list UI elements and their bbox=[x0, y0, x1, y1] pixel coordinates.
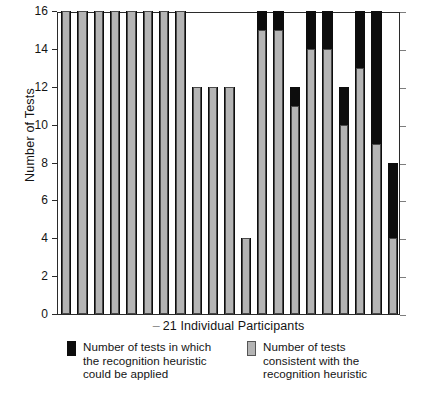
right-axis-ticks bbox=[400, 12, 412, 315]
bar-group bbox=[61, 11, 71, 314]
right-axis-tick-mark bbox=[400, 164, 406, 165]
plot-area bbox=[57, 12, 400, 315]
bar-group bbox=[159, 11, 169, 314]
bar-chart-figure: 0246810121416 Number of Tests –21 Indivi… bbox=[0, 0, 425, 405]
bar-group bbox=[110, 11, 120, 314]
legend-label-consistent-line2: consistent with the bbox=[263, 354, 359, 367]
bar-segment-consistent bbox=[62, 11, 70, 314]
right-axis-tick-mark bbox=[400, 277, 406, 278]
right-axis-tick-mark bbox=[400, 126, 406, 127]
bar-group bbox=[224, 11, 234, 314]
bar-segment-consistent bbox=[323, 49, 331, 314]
bar-group bbox=[273, 11, 283, 314]
bar-group bbox=[208, 11, 218, 314]
bar-group bbox=[322, 11, 332, 314]
bar-segment-consistent bbox=[372, 144, 380, 314]
bar-group bbox=[388, 11, 398, 314]
bar-group bbox=[371, 11, 381, 314]
y-axis-title: Number of Tests bbox=[23, 45, 37, 225]
bar-group bbox=[192, 11, 202, 314]
bar-group bbox=[241, 11, 251, 314]
right-axis-tick-mark bbox=[400, 12, 406, 13]
bars-layer bbox=[58, 13, 399, 314]
legend-swatch-gray-icon bbox=[247, 341, 256, 356]
bar-group bbox=[77, 11, 87, 314]
legend-label-applied: Number of tests in which the recognition… bbox=[83, 340, 211, 381]
bar-segment-consistent bbox=[225, 87, 233, 314]
bar-group bbox=[339, 11, 349, 314]
x-axis-title: –21 Individual Participants bbox=[57, 319, 400, 333]
bar-segment-consistent bbox=[144, 11, 152, 314]
right-axis-tick-mark bbox=[400, 50, 406, 51]
bar-group bbox=[355, 11, 365, 314]
bar-segment-consistent bbox=[242, 238, 250, 314]
bar-segment-consistent bbox=[127, 11, 135, 314]
bar-group bbox=[126, 11, 136, 314]
y-axis-tick-label: 16 bbox=[34, 4, 48, 18]
y-axis-tick-label: 0 bbox=[41, 307, 48, 321]
legend-label-applied-line3: could be applied bbox=[83, 367, 168, 380]
bar-segment-consistent bbox=[291, 106, 299, 314]
bar-segment-consistent bbox=[111, 11, 119, 314]
legend-label-consistent: Number of tests consistent with the reco… bbox=[263, 340, 367, 381]
bar-segment-consistent bbox=[209, 87, 217, 314]
legend-item-applied: Number of tests in which the recognition… bbox=[67, 340, 237, 381]
bar-segment-consistent bbox=[340, 125, 348, 314]
legend-label-consistent-line3: recognition heuristic bbox=[263, 367, 367, 380]
bar-segment-consistent bbox=[95, 11, 103, 314]
right-axis-tick-mark bbox=[400, 315, 406, 316]
right-axis-tick-mark bbox=[400, 201, 406, 202]
bar-segment-consistent bbox=[389, 238, 397, 314]
bar-segment-consistent bbox=[78, 11, 86, 314]
right-axis-tick-mark bbox=[400, 239, 406, 240]
legend-item-consistent: Number of tests consistent with the reco… bbox=[247, 340, 415, 381]
bar-segment-consistent bbox=[176, 11, 184, 314]
bar-segment-consistent bbox=[160, 11, 168, 314]
bar-segment-consistent bbox=[356, 68, 364, 314]
bar-group bbox=[306, 11, 316, 314]
legend-label-applied-line2: the recognition heuristic bbox=[83, 354, 207, 367]
right-axis-tick-mark bbox=[400, 88, 406, 89]
bar-segment-consistent bbox=[258, 30, 266, 314]
y-axis-tick-label: 2 bbox=[41, 269, 48, 283]
bar-group bbox=[143, 11, 153, 314]
x-axis-title-text: 21 Individual Participants bbox=[163, 319, 305, 333]
bar-segment-consistent bbox=[307, 49, 315, 314]
bar-segment-consistent bbox=[274, 30, 282, 314]
x-axis-title-dash: – bbox=[153, 319, 160, 333]
bar-group bbox=[94, 11, 104, 314]
bar-group bbox=[257, 11, 267, 314]
bar-group bbox=[290, 11, 300, 314]
y-axis-tick-label: 6 bbox=[41, 193, 48, 207]
y-axis-tick-label: 4 bbox=[41, 231, 48, 245]
chart-legend: Number of tests in which the recognition… bbox=[63, 340, 415, 396]
y-axis-tick-label: 8 bbox=[41, 156, 48, 170]
legend-label-consistent-line1: Number of tests bbox=[263, 340, 346, 353]
bar-group bbox=[175, 11, 185, 314]
legend-label-applied-line1: Number of tests in which bbox=[83, 340, 211, 353]
legend-swatch-black-icon bbox=[67, 341, 76, 356]
bar-segment-consistent bbox=[193, 87, 201, 314]
